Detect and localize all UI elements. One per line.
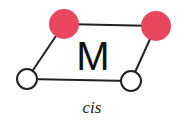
ligand-white-bottom-right [121, 71, 141, 91]
bond-bottom [27, 79, 131, 81]
isomer-caption: cis [83, 98, 102, 117]
ligand-white-bottom-left [17, 69, 37, 89]
metal-label: M [76, 34, 109, 78]
ligand-red-top-right [141, 11, 171, 41]
cis-complex-diagram: M cis [0, 0, 186, 124]
ligand-red-top-left [49, 9, 79, 39]
